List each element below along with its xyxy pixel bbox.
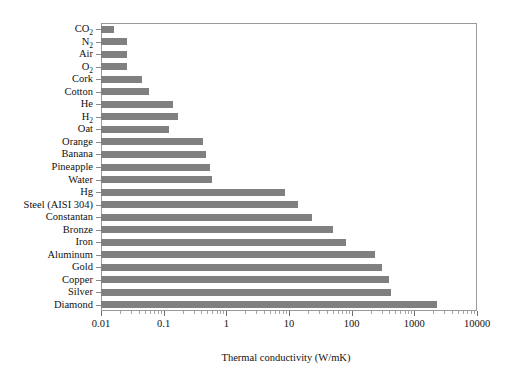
x-tick-major <box>226 311 227 316</box>
x-tick-minor <box>467 311 468 314</box>
x-tick-minor <box>150 311 151 314</box>
x-tick-minor <box>220 311 221 314</box>
bar-co2 <box>101 26 114 33</box>
x-tick-minor <box>154 311 155 314</box>
x-tick-minor <box>333 311 334 314</box>
x-tick-minor <box>158 311 159 314</box>
x-tick-major <box>289 311 290 316</box>
bar-orange <box>101 138 203 145</box>
bar-silver <box>101 289 391 296</box>
x-tick-minor <box>270 311 271 314</box>
bar-diamond <box>101 301 437 308</box>
x-tick-minor <box>452 311 453 314</box>
x-tick-major <box>101 311 102 316</box>
bar-pineapple <box>101 164 210 171</box>
x-tick-minor <box>145 311 146 314</box>
x-tick-label: 0.1 <box>157 318 170 329</box>
x-tick-minor <box>256 311 257 314</box>
x-tick-minor <box>405 311 406 314</box>
x-tick-minor <box>400 311 401 314</box>
x-tick-minor <box>275 311 276 314</box>
x-tick-minor <box>319 311 320 314</box>
x-tick-major <box>164 311 165 316</box>
x-tick-minor <box>308 311 309 314</box>
x-tick-major <box>414 311 415 316</box>
x-tick-minor <box>408 311 409 314</box>
x-tick-major <box>477 311 478 316</box>
category-axis-labels: CO2N2AirO2CorkCottonHeH2OatOrangeBananaP… <box>0 23 98 311</box>
x-tick-minor <box>338 311 339 314</box>
bar-h2 <box>101 113 178 120</box>
x-tick-label: 0.01 <box>92 318 110 329</box>
x-tick-minor <box>346 311 347 314</box>
x-tick-minor <box>279 311 280 314</box>
bar-cotton <box>101 88 149 95</box>
x-tick-label: 10000 <box>464 318 490 329</box>
x-tick-minor <box>463 311 464 314</box>
x-tick-minor <box>201 311 202 314</box>
bar-water <box>101 176 212 183</box>
x-tick-label: 1000 <box>404 318 425 329</box>
x-tick-minor <box>327 311 328 314</box>
category-label-diamond: Diamond <box>54 298 93 312</box>
x-tick-minor <box>283 311 284 314</box>
bar-steel-aisi-304 <box>101 201 298 208</box>
bar-hg <box>101 189 285 196</box>
x-axis-title: Thermal conductivity (W/mK) <box>0 352 506 363</box>
bar-aluminum <box>101 251 375 258</box>
x-tick-minor <box>371 311 372 314</box>
x-tick-minor <box>217 311 218 314</box>
x-tick-major <box>352 311 353 316</box>
bar-copper <box>101 276 389 283</box>
x-tick-minor <box>161 311 162 314</box>
bar-banana <box>101 151 206 158</box>
x-tick-minor <box>207 311 208 314</box>
bar-oat <box>101 126 169 133</box>
x-tick-minor <box>139 311 140 314</box>
bar-bronze <box>101 226 333 233</box>
x-tick-minor <box>395 311 396 314</box>
x-tick-minor <box>389 311 390 314</box>
x-tick-minor <box>183 311 184 314</box>
bar-iron <box>101 239 346 246</box>
bar-series <box>101 23 477 311</box>
bar-cork <box>101 76 142 83</box>
x-tick-minor <box>194 311 195 314</box>
x-tick-minor <box>433 311 434 314</box>
x-tick-minor <box>245 311 246 314</box>
thermal-conductivity-bar-chart: CO2N2AirO2CorkCottonHeH2OatOrangeBananaP… <box>0 0 506 382</box>
x-tick-minor <box>474 311 475 314</box>
x-tick-label: 10 <box>284 318 295 329</box>
x-tick-minor <box>411 311 412 314</box>
x-tick-label: 1 <box>224 318 229 329</box>
x-tick-minor <box>264 311 265 314</box>
bar-gold <box>101 264 382 271</box>
x-tick-minor <box>382 311 383 314</box>
x-tick-minor <box>342 311 343 314</box>
x-tick-minor <box>120 311 121 314</box>
bar-o2 <box>101 63 127 70</box>
x-tick-minor <box>444 311 445 314</box>
x-tick-minor <box>212 311 213 314</box>
bar-he <box>101 101 173 108</box>
x-tick-minor <box>131 311 132 314</box>
bar-air <box>101 51 127 58</box>
x-axis-title-text: Thermal conductivity (W/mK) <box>156 352 351 363</box>
x-tick-minor <box>458 311 459 314</box>
x-tick-minor <box>349 311 350 314</box>
x-tick-minor <box>471 311 472 314</box>
bar-constantan <box>101 214 312 221</box>
x-tick-minor <box>223 311 224 314</box>
x-tick-minor <box>286 311 287 314</box>
x-tick-label: 100 <box>344 318 360 329</box>
bar-n2 <box>101 38 127 45</box>
